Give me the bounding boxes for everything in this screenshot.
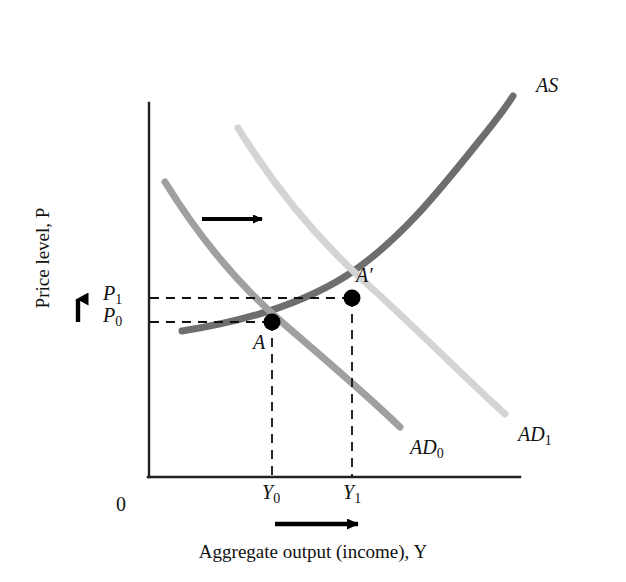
curve-label-ad1-base: AD bbox=[518, 423, 545, 445]
point-a-marker bbox=[264, 314, 281, 331]
curve-label-as-base: AS bbox=[536, 74, 558, 96]
point-label-a-prime: A′ bbox=[356, 265, 373, 285]
curve-label-ad0: AD0 bbox=[410, 437, 444, 461]
guide-lines bbox=[150, 298, 353, 477]
tick-label-y0-subscript: 0 bbox=[273, 491, 280, 506]
curve-label-ad1-subscript: 1 bbox=[545, 433, 552, 448]
ad-as-diagram: Aggregate output (income), Y Price level… bbox=[0, 0, 626, 582]
x-axis-title: Aggregate output (income), Y bbox=[0, 542, 626, 561]
tick-label-p0-base: P bbox=[103, 304, 115, 326]
tick-label-y0: Y0 bbox=[262, 482, 280, 506]
curve-label-ad1: AD1 bbox=[518, 424, 552, 448]
point-label-a: A bbox=[253, 332, 265, 352]
tick-label-y0-base: Y bbox=[262, 481, 273, 503]
point-a-prime-marker bbox=[344, 290, 361, 307]
tick-label-y1-subscript: 1 bbox=[354, 491, 361, 506]
tick-label-y1: Y1 bbox=[343, 482, 361, 506]
curve-label-ad0-subscript: 0 bbox=[437, 446, 444, 461]
point-label-a-prime-mark: ′ bbox=[368, 264, 372, 286]
tick-label-p0: P0 bbox=[103, 305, 122, 329]
tick-label-y1-base: Y bbox=[343, 481, 354, 503]
tick-label-p0-subscript: 0 bbox=[115, 314, 122, 329]
curve-label-as: AS bbox=[536, 75, 558, 95]
y-axis-title: Price level, P bbox=[33, 208, 52, 309]
curve-label-ad0-base: AD bbox=[410, 436, 437, 458]
origin-label: 0 bbox=[116, 494, 126, 514]
point-label-a-prime-base: A bbox=[356, 264, 368, 286]
tick-label-p1-base: P bbox=[103, 282, 115, 304]
plot-canvas bbox=[0, 0, 626, 582]
point-label-a-base: A bbox=[253, 331, 265, 353]
